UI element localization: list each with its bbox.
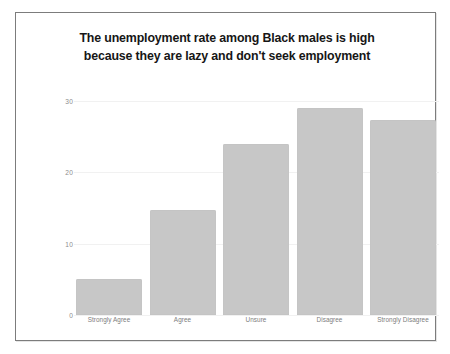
chart-title-line-1: The unemployment rate among Black males … — [42, 29, 412, 47]
slide-canvas: The unemployment rate among Black males … — [0, 0, 450, 354]
chart-title-line-2: because they are lazy and don't seek emp… — [42, 47, 412, 65]
chart-title: The unemployment rate among Black males … — [42, 29, 412, 65]
bar-slot-agree — [150, 101, 216, 315]
x-tick-label-unsure: Unsure — [223, 316, 289, 323]
bar-strongly-disagree[interactable] — [370, 120, 436, 315]
bar-unsure[interactable] — [223, 144, 289, 315]
bar-disagree[interactable] — [297, 108, 363, 315]
x-tick-label-agree: Agree — [150, 316, 216, 323]
y-tick-label-0: 0 — [47, 312, 73, 319]
bar-slot-disagree — [297, 101, 363, 315]
y-tick-label-20: 20 — [47, 169, 73, 176]
bar-slot-strongly-disagree — [370, 101, 436, 315]
bar-slot-strongly-agree — [76, 101, 142, 315]
chart-frame: The unemployment rate among Black males … — [15, 12, 436, 341]
bar-agree[interactable] — [150, 210, 216, 315]
x-tick-label-strongly-disagree: Strongly Disagree — [370, 316, 436, 323]
bar-strongly-agree[interactable] — [76, 279, 142, 315]
x-axis: Strongly Agree Agree Unsure Disagree Str… — [76, 316, 436, 323]
bar-series — [76, 101, 436, 315]
x-tick-label-disagree: Disagree — [297, 316, 363, 323]
y-tick-label-10: 10 — [47, 240, 73, 247]
y-tick-label-30: 30 — [47, 98, 73, 105]
bar-slot-unsure — [223, 101, 289, 315]
x-tick-label-strongly-agree: Strongly Agree — [76, 316, 142, 323]
plot-area: 30 20 10 0 — [61, 101, 439, 315]
